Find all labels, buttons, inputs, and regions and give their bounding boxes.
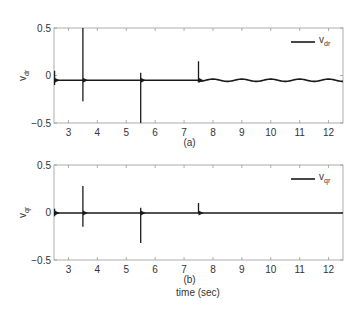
y-axis-label: vdr xyxy=(17,69,30,81)
y-tick-label: 0.5 xyxy=(37,23,51,34)
x-tick-label: 5 xyxy=(123,264,129,275)
x-axis-label: time (sec) xyxy=(176,287,220,298)
x-tick-label: 4 xyxy=(95,127,101,138)
y-tick-label: 0.5 xyxy=(37,160,51,171)
chart-panel-b: 3456789101112−0.500.5vqr(b)vqr xyxy=(17,160,343,286)
x-tick-label: 11 xyxy=(294,127,305,138)
x-tick-label: 10 xyxy=(265,264,277,275)
x-tick-label: 12 xyxy=(323,264,335,275)
y-axis-label: vqr xyxy=(17,206,31,218)
x-tick-label: 8 xyxy=(210,127,216,138)
x-tick-label: 6 xyxy=(152,264,158,275)
x-tick-label: 9 xyxy=(239,264,245,275)
y-tick-label: −0.5 xyxy=(31,255,51,266)
x-tick-label: 10 xyxy=(265,127,277,138)
y-tick-label: 0 xyxy=(45,207,51,218)
x-tick-label: 11 xyxy=(294,264,305,275)
y-tick-label: −0.5 xyxy=(31,118,51,129)
x-tick-label: 5 xyxy=(123,127,129,138)
x-tick-label: 8 xyxy=(210,264,216,275)
x-tick-label: 6 xyxy=(152,127,158,138)
x-tick-label: 3 xyxy=(66,127,72,138)
chart-panel-a: 3456789101112−0.500.5vdr(a)vdr xyxy=(17,23,343,149)
x-tick-label: 9 xyxy=(239,127,245,138)
panel-caption: (a) xyxy=(183,137,195,148)
panel-caption: (b) xyxy=(183,274,195,285)
x-tick-label: 4 xyxy=(95,264,101,275)
x-tick-label: 3 xyxy=(66,264,72,275)
figure: 3456789101112−0.500.5vdr(a)vdr 345678910… xyxy=(0,0,362,310)
y-tick-label: 0 xyxy=(45,70,51,81)
x-tick-label: 12 xyxy=(323,127,335,138)
